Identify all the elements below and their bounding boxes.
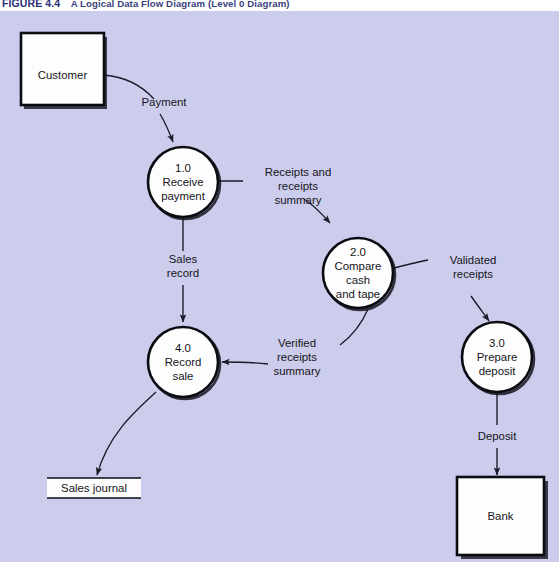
process-3-number: 3.0: [489, 337, 505, 349]
flow-label-deposit: Deposit: [478, 430, 517, 442]
flow-label-validated-line1: Validated: [450, 254, 497, 266]
process-1-line2: payment: [161, 190, 206, 202]
process-1-line1: Receive: [162, 176, 203, 188]
flow-sales-journal-arrow: [97, 392, 156, 475]
process-4-line2: sale: [173, 370, 194, 382]
flow-label-verified-receipts-summary: Verified receipts summary: [274, 337, 321, 377]
flow-label-validated-receipts: Validated receipts: [450, 254, 497, 280]
flow-verified-summary-arrow: [222, 362, 268, 364]
entity-customer[interactable]: Customer: [21, 33, 107, 109]
flow-label-payment-line1: Payment: [142, 96, 188, 108]
figure-root: FIGURE 4.4 A Logical Data Flow Diagram (…: [0, 0, 559, 562]
process-record-sale[interactable]: 4.0 Record sale: [148, 327, 220, 399]
process-2-line3: and tape: [336, 288, 380, 300]
process-2-line2: cash: [346, 274, 370, 286]
process-compare-cash-and-tape[interactable]: 2.0 Compare cash and tape: [323, 238, 395, 310]
flow-payment-arrow: [160, 114, 173, 142]
process-4-number: 4.0: [175, 342, 191, 354]
flow-label-sales-record-line1: Sales: [169, 253, 198, 265]
diagram-canvas: Customer 1.0 Receive payment 2.0 Compare…: [0, 11, 559, 562]
figure-title: A Logical Data Flow Diagram (Level 0 Dia…: [71, 0, 290, 9]
flow-label-verified-line3: summary: [274, 365, 321, 377]
flow-label-receipts-line2: receipts: [278, 180, 318, 192]
flow-label-receipts-line3: summary: [275, 194, 322, 206]
flow-validated-receipts-arrow: [471, 296, 489, 321]
flow-verified-summary-line: [340, 309, 368, 345]
process-prepare-deposit[interactable]: 3.0 Prepare deposit: [462, 322, 534, 394]
data-store-sales-journal[interactable]: Sales journal: [47, 478, 141, 498]
process-3-line1: Prepare: [477, 351, 518, 363]
process-3-line2: deposit: [479, 365, 517, 377]
flow-label-payment: Payment: [142, 96, 188, 108]
process-receive-payment[interactable]: 1.0 Receive payment: [148, 147, 220, 219]
flow-label-deposit-line1: Deposit: [478, 430, 517, 442]
process-2-number: 2.0: [350, 246, 366, 258]
figure-number: FIGURE 4.4: [2, 0, 60, 9]
flow-label-receipts-line1: Receipts and: [265, 166, 332, 178]
process-1-number: 1.0: [175, 162, 191, 174]
figure-caption: FIGURE 4.4 A Logical Data Flow Diagram (…: [2, 0, 290, 11]
flow-label-sales-record: Sales record: [167, 253, 199, 279]
data-store-sales-journal-label: Sales journal: [61, 482, 127, 494]
entity-bank[interactable]: Bank: [457, 477, 548, 559]
flow-label-sales-record-line2: record: [167, 267, 199, 279]
flow-label-verified-line1: Verified: [278, 337, 316, 349]
figure-caption-band: FIGURE 4.4 A Logical Data Flow Diagram (…: [0, 0, 559, 11]
flow-label-receipts-and-receipts-summary: Receipts and receipts summary: [265, 166, 332, 206]
process-2-line1: Compare: [335, 260, 382, 272]
entity-customer-label: Customer: [38, 69, 88, 81]
flow-label-validated-line2: receipts: [453, 268, 493, 280]
process-4-line1: Record: [165, 356, 202, 368]
entity-bank-label: Bank: [488, 510, 514, 522]
flow-label-verified-line2: receipts: [277, 351, 317, 363]
flow-validated-receipts-line: [394, 260, 428, 268]
